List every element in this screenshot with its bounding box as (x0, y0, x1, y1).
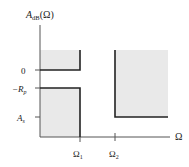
passband-lower-shaded-region (40, 88, 80, 137)
passband-upper-shaded-region (40, 50, 80, 70)
x-tick-label-omega2: Ω2 (109, 149, 119, 160)
y-tick-label-rp: −Rp (12, 84, 27, 95)
stopband-shaded-region (115, 50, 168, 117)
x-axis-title: Ω (175, 131, 182, 142)
y-axis-title: AdB(Ω) (25, 9, 54, 21)
x-tick-label-omega1: Ω1 (73, 149, 83, 160)
y-tick-label-as: As (16, 113, 26, 124)
y-tick-label-0: 0 (21, 66, 26, 76)
filter-spec-diagram: AdB(Ω) 0 −Rp As Ω1 Ω2 Ω (0, 0, 189, 167)
